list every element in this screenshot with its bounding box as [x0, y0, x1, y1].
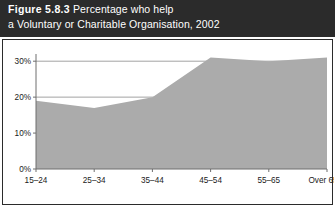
y-tick-label: 0%	[19, 165, 31, 174]
plot-frame: 0%10%20%30% 15–2425–3435–4445–5455–65Ove…	[2, 39, 333, 205]
x-tick-label: 45–54	[199, 176, 222, 185]
x-tick-label: 55–65	[257, 176, 280, 185]
y-tick-label: 20%	[15, 93, 31, 102]
figure-caption-band: Figure 5.8.3 Percentage who help a Volun…	[0, 0, 335, 37]
y-tick-label: 10%	[15, 129, 31, 138]
figure-container: Figure 5.8.3 Percentage who help a Volun…	[0, 0, 335, 207]
x-tick-label: Over 65	[308, 176, 334, 185]
chart-svg: 0%10%20%30% 15–2425–3435–4445–5455–65Ove…	[3, 40, 334, 206]
caption-line-2: a Voluntary or Charitable Organisation, …	[8, 17, 329, 32]
y-axis-tick-labels: 0%10%20%30%	[15, 57, 36, 174]
area-chart: 0%10%20%30% 15–2425–3435–4445–5455–65Ove…	[3, 40, 332, 204]
x-tick-label: 15–24	[25, 176, 48, 185]
caption-text-part1: Percentage who help	[73, 3, 174, 15]
x-tick-label: 25–34	[83, 176, 106, 185]
y-tick-label: 30%	[15, 57, 31, 66]
x-tick-label: 35–44	[141, 176, 164, 185]
caption-line-1: Figure 5.8.3 Percentage who help	[8, 2, 329, 17]
chart-plot-area: 0%10%20%30% 15–2425–3435–4445–5455–65Ove…	[15, 54, 334, 185]
figure-number: Figure 5.8.3	[8, 3, 70, 15]
x-axis-tick-labels: 15–2425–3435–4445–5455–65Over 65	[25, 169, 334, 185]
